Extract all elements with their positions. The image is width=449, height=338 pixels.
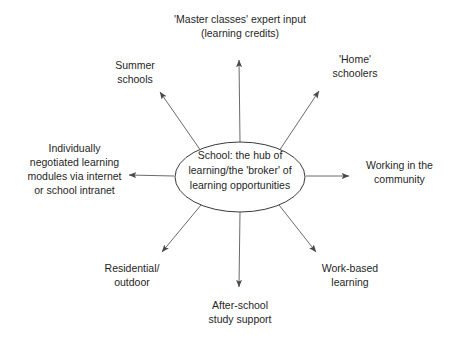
spoke-residential-outdoor	[162, 205, 201, 252]
spoke-summer-schools	[160, 92, 201, 151]
spoke-after-school-study	[239, 212, 240, 287]
diagram-canvas: School: the hub of learning/the 'broker'…	[0, 0, 449, 338]
spoke-work-based-learning	[279, 205, 316, 252]
node-label-working-community: Working in the community	[352, 158, 447, 186]
node-label-work-based-learning: Work-based learning	[300, 261, 400, 289]
node-label-after-school-study: After-school study support	[168, 298, 312, 326]
node-label-individual-modules: Individually negotiated learning modules…	[12, 141, 137, 197]
spoke-home-schoolers	[279, 91, 319, 151]
node-label-home-schoolers: 'Home' schoolers	[305, 52, 405, 80]
spoke-master-classes	[239, 60, 240, 142]
hub-label: School: the hub of learning/the 'broker'…	[176, 148, 304, 193]
node-label-summer-schools: Summer schools	[85, 58, 185, 86]
node-label-residential-outdoor: Residential/ outdoor	[78, 261, 186, 289]
node-label-master-classes: 'Master classes' expert input (learning …	[140, 12, 340, 40]
